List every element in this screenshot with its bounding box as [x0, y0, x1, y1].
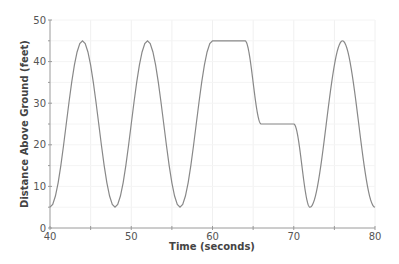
y-tick-label: 30: [33, 98, 46, 109]
y-tick-label: 20: [33, 139, 46, 150]
x-tick-label: 80: [369, 231, 382, 242]
x-axis-title: Time (seconds): [169, 241, 255, 252]
y-axis-ticks: 01020304050: [33, 15, 52, 234]
y-tick-label: 0: [40, 223, 46, 234]
y-tick-label: 50: [33, 15, 46, 26]
y-tick-label: 10: [33, 181, 46, 192]
x-tick-label: 50: [125, 231, 138, 242]
x-tick-label: 70: [287, 231, 300, 242]
line-chart: 4050607080 01020304050 Time (seconds) Di…: [0, 0, 399, 264]
y-tick-label: 40: [33, 56, 46, 67]
y-axis-title: Distance Above Ground (feet): [19, 40, 30, 208]
